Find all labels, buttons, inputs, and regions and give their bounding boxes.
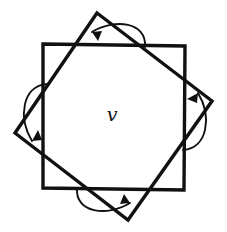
center-label: v	[107, 103, 118, 125]
figure-container: v	[0, 0, 227, 232]
rotated-square-diagram: v	[0, 0, 227, 232]
